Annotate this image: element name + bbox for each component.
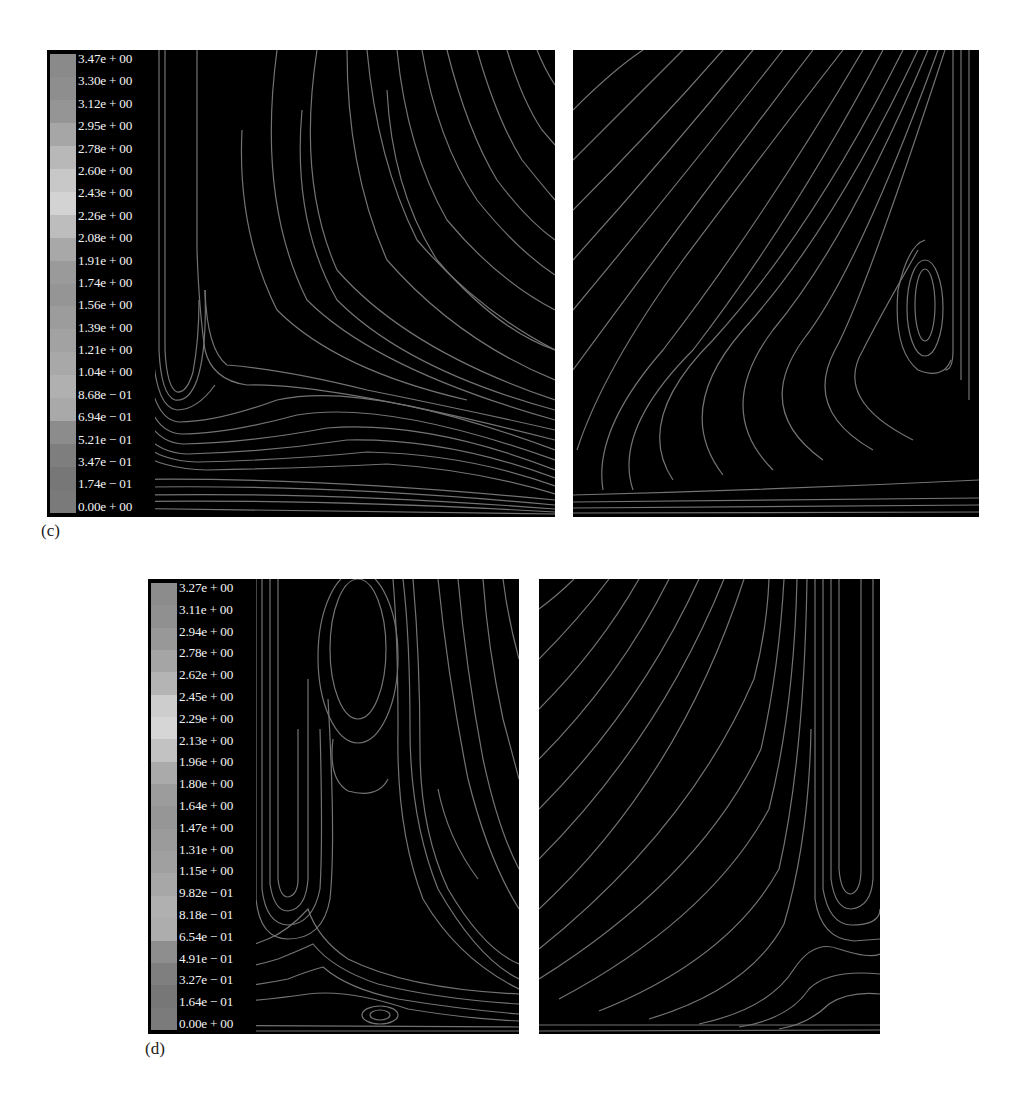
colorbar-tick: 1.74e − 01	[78, 475, 132, 492]
colorbar-tick: 1.39e + 00	[78, 319, 132, 336]
colorbar-swatch	[151, 672, 177, 694]
colorbar-swatches-c	[50, 54, 76, 513]
colorbar-swatch	[50, 261, 76, 284]
colorbar-swatch	[50, 444, 76, 467]
colorbar-swatch	[151, 896, 177, 918]
colorbar-tick: 3.11e + 00	[179, 601, 233, 618]
subfigure-label-d: (d)	[145, 1039, 165, 1059]
colorbar-swatches-d	[151, 583, 177, 1030]
colorbar-tick: 1.96e + 00	[179, 753, 233, 770]
colorbar-tick: 2.26e + 00	[78, 207, 132, 224]
colorbar-tick: 6.54e − 01	[179, 928, 233, 945]
colorbar-c: 3.47e + 00 3.30e + 00 3.12e + 00 2.95e +…	[47, 50, 155, 517]
panel-c-left: 3.47e + 00 3.30e + 00 3.12e + 00 2.95e +…	[47, 50, 555, 517]
colorbar-tick: 1.74e + 00	[78, 274, 132, 291]
colorbar-tick: 1.04e + 00	[78, 363, 132, 380]
colorbar-swatch	[151, 918, 177, 940]
colorbar-tick: 2.43e + 00	[78, 184, 132, 201]
colorbar-tick: 1.64e + 00	[179, 797, 233, 814]
colorbar-tick: 1.56e + 00	[78, 296, 132, 313]
colorbar-tick: 2.94e + 00	[179, 623, 233, 640]
colorbar-swatch	[50, 284, 76, 307]
colorbar-tick: 3.27e − 01	[179, 971, 233, 988]
colorbar-tick: 2.08e + 00	[78, 229, 132, 246]
colorbar-swatch	[50, 306, 76, 329]
colorbar-tick: 3.47e − 01	[78, 453, 132, 470]
colorbar-swatch	[50, 123, 76, 146]
colorbar-swatch	[50, 54, 76, 77]
colorbar-swatch	[151, 985, 177, 1007]
colorbar-swatch	[50, 238, 76, 261]
colorbar-swatch	[151, 695, 177, 717]
colorbar-swatch	[151, 717, 177, 739]
colorbar-swatch	[50, 375, 76, 398]
colorbar-tick: 2.62e + 00	[179, 666, 233, 683]
colorbar-tick: 3.30e + 00	[78, 72, 132, 89]
colorbar-swatch	[50, 352, 76, 375]
colorbar-d: 3.27e + 00 3.11e + 00 2.94e + 00 2.78e +…	[148, 579, 256, 1034]
colorbar-tick: 2.78e + 00	[78, 140, 132, 157]
colorbar-tick: 2.95e + 00	[78, 117, 132, 134]
panel-d-left: 3.27e + 00 3.11e + 00 2.94e + 00 2.78e +…	[148, 579, 519, 1034]
colorbar-swatch	[151, 739, 177, 761]
colorbar-tick: 1.64e − 01	[179, 993, 233, 1010]
colorbar-tick: 1.47e + 00	[179, 819, 233, 836]
colorbar-swatch	[151, 628, 177, 650]
streamlines-d-right	[539, 579, 880, 1034]
colorbar-tick: 1.21e + 00	[78, 341, 132, 358]
colorbar-swatch	[151, 851, 177, 873]
colorbar-tick: 1.91e + 00	[78, 252, 132, 269]
colorbar-tick: 2.60e + 00	[78, 162, 132, 179]
colorbar-tick: 8.68e − 01	[78, 386, 132, 403]
colorbar-swatch	[151, 1008, 177, 1030]
colorbar-swatch	[50, 169, 76, 192]
colorbar-ticks-d: 3.27e + 00 3.11e + 00 2.94e + 00 2.78e +…	[179, 579, 233, 1034]
colorbar-swatch	[151, 650, 177, 672]
colorbar-swatch	[151, 873, 177, 895]
colorbar-tick: 2.13e + 00	[179, 732, 233, 749]
colorbar-swatch	[151, 583, 177, 605]
colorbar-swatch	[50, 77, 76, 100]
colorbar-swatch	[151, 829, 177, 851]
colorbar-swatch	[50, 467, 76, 490]
colorbar-tick: 8.18e − 01	[179, 906, 233, 923]
colorbar-tick: 2.29e + 00	[179, 710, 233, 727]
colorbar-swatch	[151, 784, 177, 806]
colorbar-swatch	[50, 398, 76, 421]
colorbar-tick: 2.45e + 00	[179, 688, 233, 705]
colorbar-swatch	[50, 100, 76, 123]
colorbar-tick: 3.12e + 00	[78, 95, 132, 112]
colorbar-swatch	[50, 146, 76, 169]
colorbar-swatch	[151, 762, 177, 784]
colorbar-tick: 6.94e − 01	[78, 408, 132, 425]
colorbar-tick: 1.15e + 00	[179, 862, 233, 879]
colorbar-tick: 2.78e + 00	[179, 644, 233, 661]
colorbar-tick: 0.00e + 00	[179, 1015, 233, 1032]
colorbar-tick: 1.31e + 00	[179, 841, 233, 858]
colorbar-tick: 0.00e + 00	[78, 498, 132, 515]
colorbar-swatch	[50, 215, 76, 238]
subfigure-label-c: (c)	[41, 521, 60, 541]
colorbar-tick: 9.82e − 01	[179, 884, 233, 901]
colorbar-ticks-c: 3.47e + 00 3.30e + 00 3.12e + 00 2.95e +…	[78, 50, 132, 517]
colorbar-tick: 4.91e − 01	[179, 950, 233, 967]
colorbar-swatch	[151, 605, 177, 627]
panel-c-right	[573, 50, 979, 517]
colorbar-swatch	[50, 490, 76, 513]
colorbar-tick: 3.27e + 00	[179, 579, 233, 596]
colorbar-tick: 5.21e − 01	[78, 431, 132, 448]
colorbar-swatch	[151, 963, 177, 985]
colorbar-swatch	[50, 329, 76, 352]
panel-d-right	[539, 579, 880, 1034]
colorbar-swatch	[50, 192, 76, 215]
colorbar-tick: 3.47e + 00	[78, 50, 132, 67]
colorbar-swatch	[50, 421, 76, 444]
colorbar-swatch	[151, 941, 177, 963]
colorbar-swatch	[151, 806, 177, 828]
colorbar-tick: 1.80e + 00	[179, 775, 233, 792]
streamlines-c-right	[573, 50, 979, 517]
